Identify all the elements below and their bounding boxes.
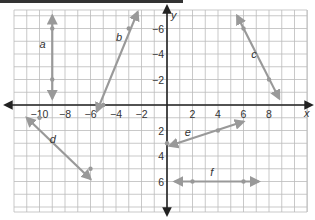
point-d bbox=[88, 167, 92, 171]
x-tick-label: −4 bbox=[110, 108, 122, 120]
point-a bbox=[50, 26, 54, 30]
point-a bbox=[50, 77, 54, 81]
point-d bbox=[37, 116, 41, 120]
point-b bbox=[101, 103, 105, 107]
point-c bbox=[241, 26, 245, 30]
x-tick-label: −2 bbox=[136, 108, 148, 120]
x-tick-label: 6 bbox=[241, 108, 247, 120]
point-b bbox=[127, 26, 131, 30]
y-tick-label: −6 bbox=[152, 23, 164, 35]
x-tick-label: 8 bbox=[266, 108, 272, 120]
y-tick-label: −2 bbox=[152, 74, 164, 86]
point-c bbox=[267, 77, 271, 81]
x-axis-label: x bbox=[303, 107, 310, 119]
x-tick-label: 2 bbox=[190, 108, 196, 120]
x-tick-label: −6 bbox=[85, 108, 97, 120]
y-tick-label: 6 bbox=[158, 176, 164, 188]
point-f bbox=[190, 179, 194, 183]
y-tick-label: 2 bbox=[158, 125, 164, 137]
x-tick-label: −8 bbox=[59, 108, 71, 120]
label-a: a bbox=[40, 38, 46, 50]
line-d: d bbox=[27, 116, 93, 179]
label-b: b bbox=[116, 31, 122, 43]
y-tick-label: −4 bbox=[152, 48, 164, 60]
y-tick-label: 4 bbox=[158, 150, 164, 162]
y-axis-label: y bbox=[170, 9, 178, 21]
label-e: e bbox=[185, 126, 191, 138]
point-f bbox=[241, 179, 245, 183]
point-e bbox=[216, 128, 220, 132]
label-d: d bbox=[50, 133, 57, 145]
label-f: f bbox=[210, 166, 214, 178]
point-e bbox=[165, 141, 169, 145]
line-e: e bbox=[165, 122, 244, 146]
x-tick-label: 4 bbox=[215, 108, 221, 120]
label-c: c bbox=[251, 48, 257, 60]
coordinate-plane: xy −10−8−6−4−22468642−2−4−6 abcdef bbox=[0, 0, 315, 220]
